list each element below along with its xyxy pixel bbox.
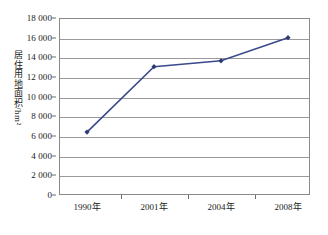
y-axis-tick-label: 8 000	[31, 111, 52, 121]
data-point-marker	[285, 35, 290, 40]
line-series-layer	[59, 18, 310, 195]
y-axis-tick-mark	[52, 96, 56, 97]
x-axis-tick-labels: 1990年2001年2004年2008年	[59, 198, 310, 218]
y-axis-tick-mark	[52, 57, 56, 58]
y-axis-tick-label: 14 000	[27, 52, 52, 62]
series-line	[87, 38, 288, 132]
y-axis-tick-label: 16 000	[27, 33, 52, 43]
y-axis-tick-labels: 02 0004 0006 0008 00010 00012 00014 0001…	[0, 18, 56, 195]
y-axis-tick-label: 12 000	[27, 72, 52, 82]
y-axis-tick-label: 10 000	[27, 92, 52, 102]
x-axis-tick-label: 2004年	[208, 200, 235, 213]
y-axis-tick-mark	[52, 77, 56, 78]
y-axis-tick-mark	[52, 195, 56, 196]
data-point-marker	[218, 58, 223, 63]
y-axis-tick-mark	[52, 116, 56, 117]
y-axis-tick-mark	[52, 37, 56, 38]
y-axis-tick-mark	[52, 175, 56, 176]
y-axis-tick-label: 18 000	[27, 13, 52, 23]
y-axis-tick-label: 6 000	[31, 131, 52, 141]
y-axis-tick-mark	[52, 136, 56, 137]
x-axis-tick-mark	[121, 195, 122, 199]
y-axis-tick-mark	[52, 155, 56, 156]
y-axis-tick-label: 4 000	[31, 151, 52, 161]
y-axis-tick-label: 2 000	[31, 170, 52, 180]
chart-figure: 居住用地面积/hm² 02 0004 0006 0008 00010 00012…	[0, 0, 328, 235]
y-axis-tick-mark	[52, 18, 56, 19]
x-axis-tick-label: 2008年	[275, 200, 302, 213]
x-axis-tick-mark	[188, 195, 189, 199]
x-axis-tick-label: 2001年	[141, 200, 168, 213]
x-axis-tick-label: 1990年	[74, 200, 101, 213]
x-axis-tick-mark	[255, 195, 256, 199]
